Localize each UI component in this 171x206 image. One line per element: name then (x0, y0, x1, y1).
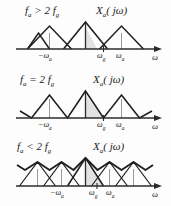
panel-1-axis-label: ω (152, 52, 158, 62)
panel-2-tick-omega-g: ωg (97, 121, 105, 131)
panel-1-tick-omega-g: ωg (97, 52, 105, 62)
panel-1-condition-label: fa > 2 fg (25, 5, 59, 19)
panel-1-tick-neg-omega-a: −ωa (38, 52, 52, 62)
panel-1-spectrum-label: Xa( jω) (96, 5, 127, 19)
panel-3-tick-omega-a: ωa (106, 189, 114, 199)
panel-3-spectrum-label: Xa( jω) (93, 141, 124, 155)
panel-undersampled-aliasing: fa < 2 fg Xa( jω) −ωa ωg ωa ω (0, 137, 171, 206)
panel-oversampled: fa > 2 fg Xa( jω) −ωa ωg ωa ω (0, 0, 171, 69)
panel-2-axis-label: ω (152, 121, 158, 131)
sampling-spectra-figure: fa > 2 fg Xa( jω) −ωa ωg ωa ω (0, 0, 171, 206)
panel-2-condition-label: fa = 2 fg (20, 74, 54, 88)
panel-2-tick-neg-omega-a: −ωa (38, 121, 52, 131)
panel-3-axis-label: ω (152, 189, 158, 199)
panel-3-condition-label: fa < 2 fg (17, 141, 51, 155)
panel-3-tick-omega-g: ωg (89, 189, 97, 199)
panel-critically-sampled: fa = 2 fg Xa( jω) −ωa ωg ωa ω (0, 69, 171, 138)
panel-2-tick-omega-a: ωa (116, 121, 124, 131)
panel-1-tick-omega-a: ωa (116, 52, 124, 62)
panel-3-tick-neg-omega-a: −ωa (50, 189, 64, 199)
panel-2-spectrum-label: Xa( jω) (93, 74, 124, 88)
